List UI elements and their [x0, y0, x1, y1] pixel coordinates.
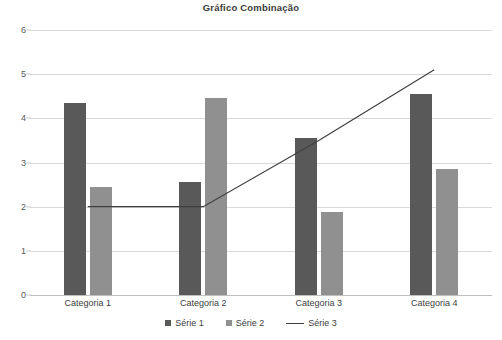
- line-series-serie-3: [30, 30, 492, 295]
- y-axis-tick-label: 4: [2, 113, 26, 123]
- y-axis-tick-label: 5: [2, 69, 26, 79]
- legend-label: Série 1: [175, 318, 204, 328]
- y-axis-tick-label: 6: [2, 25, 26, 35]
- x-axis-label-4: Categoria 4: [411, 298, 458, 308]
- legend-square-icon: [165, 320, 171, 326]
- legend-item-2[interactable]: Série 2: [226, 318, 265, 328]
- x-axis-line: [30, 295, 492, 296]
- y-axis: 6543210: [0, 30, 26, 295]
- line-series-layer: [30, 30, 492, 295]
- x-axis-labels: Categoria 1Categoria 2Categoria 3Categor…: [30, 298, 492, 314]
- chart-legend: Série 1Série 2Série 3: [0, 318, 502, 328]
- x-axis-label-2: Categoria 2: [180, 298, 227, 308]
- legend-square-icon: [226, 320, 232, 326]
- combination-chart: Gráfico Combinação 6543210 Categoria 1Ca…: [0, 0, 502, 340]
- legend-item-3[interactable]: Série 3: [286, 318, 337, 328]
- chart-title: Gráfico Combinação: [0, 2, 502, 13]
- plot-area: [30, 30, 492, 295]
- legend-label: Série 2: [236, 318, 265, 328]
- x-axis-label-1: Categoria 1: [64, 298, 111, 308]
- y-axis-tick-label: 3: [2, 158, 26, 168]
- x-axis-label-3: Categoria 3: [295, 298, 342, 308]
- legend-item-1[interactable]: Série 1: [165, 318, 204, 328]
- legend-line-icon: [286, 323, 304, 324]
- y-axis-tick-label: 2: [2, 202, 26, 212]
- legend-label: Série 3: [308, 318, 337, 328]
- y-axis-tick-label: 1: [2, 246, 26, 256]
- y-axis-tick-label: 0: [2, 290, 26, 300]
